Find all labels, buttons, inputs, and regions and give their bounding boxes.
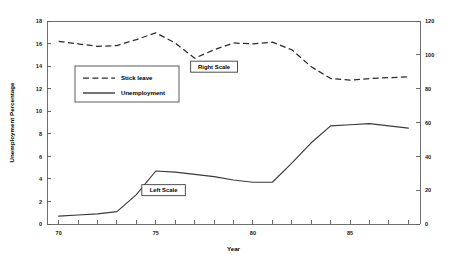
axis-ticks [47, 21, 420, 224]
axis-titles: Unemployment PercentageYear [8, 82, 241, 252]
svg-text:85: 85 [347, 230, 353, 236]
svg-text:8: 8 [39, 131, 42, 137]
svg-text:70: 70 [56, 230, 62, 236]
svg-text:100: 100 [425, 52, 434, 58]
svg-text:80: 80 [250, 230, 256, 236]
svg-text:4: 4 [39, 176, 43, 182]
legend-label-1: Unemployment [121, 89, 165, 96]
chart-container: 70758085024681012141618020406080100120 R… [0, 0, 463, 261]
svg-text:6: 6 [39, 154, 42, 160]
axis-tick-labels: 70758085024681012141618020406080100120 [36, 18, 435, 236]
line-chart: 70758085024681012141618020406080100120 R… [0, 0, 463, 261]
y-axis-title: Unemployment Percentage [8, 82, 15, 162]
svg-text:20: 20 [425, 187, 431, 193]
svg-text:120: 120 [425, 18, 434, 24]
svg-text:16: 16 [36, 41, 42, 47]
svg-text:Right Scale: Right Scale [198, 64, 231, 70]
data-series [59, 33, 409, 216]
svg-text:80: 80 [425, 86, 431, 92]
svg-text:40: 40 [425, 154, 431, 160]
legend-label-0: Stick leave [121, 74, 153, 81]
svg-text:60: 60 [425, 120, 431, 126]
chart-legend: Stick leaveUnemployment [75, 66, 179, 102]
svg-text:Left Scale: Left Scale [150, 187, 179, 193]
svg-text:2: 2 [39, 199, 42, 205]
svg-text:0: 0 [39, 221, 42, 227]
annotation-right-scale: Right Scale [191, 61, 238, 72]
svg-text:10: 10 [36, 108, 42, 114]
svg-text:12: 12 [36, 86, 42, 92]
axes [47, 21, 420, 224]
series-line-1 [59, 124, 409, 216]
x-axis-title: Year [227, 245, 241, 252]
annotation-left-scale: Left Scale [142, 185, 186, 196]
svg-text:0: 0 [425, 221, 428, 227]
svg-text:18: 18 [36, 18, 42, 24]
svg-text:14: 14 [36, 63, 43, 69]
svg-text:75: 75 [153, 230, 159, 236]
